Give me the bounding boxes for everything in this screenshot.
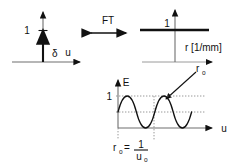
left-y-tick-label: 1 (24, 25, 30, 36)
bottom-y-axis-label: E (123, 77, 130, 88)
left-x-axis-label: u (65, 47, 71, 58)
formula-denominator: u (136, 151, 142, 162)
formula-denominator-subscript: o (144, 156, 148, 163)
figure-canvas: 1 δ u FT 1 r [1/mm] r o 1 E u (0, 0, 245, 163)
bottom-y-tick-label: 1 (106, 91, 112, 102)
delta-symbol-label: δ (52, 48, 58, 59)
right-x-axis-label: r [1/mm] (185, 42, 222, 53)
formula-numerator: 1 (138, 139, 144, 150)
fourier-transform-diagram: 1 δ u FT 1 r [1/mm] r o 1 E u (0, 0, 245, 163)
bottom-x-axis-label: u (221, 123, 227, 134)
formula-lhs-subscript: o (119, 148, 123, 155)
r-o-callout-subscript: o (202, 69, 206, 76)
right-y-tick-label: 1 (164, 18, 170, 29)
ft-label: FT (102, 15, 114, 26)
formula-equals: = (124, 142, 130, 153)
